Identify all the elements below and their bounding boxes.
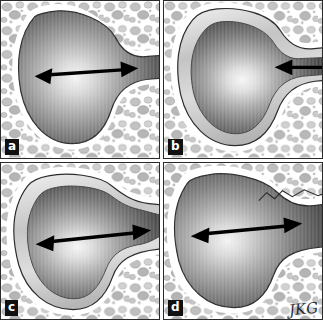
panel-c: c xyxy=(0,162,160,320)
panel-label-c: c xyxy=(5,300,18,316)
panel-label-a: a xyxy=(5,139,19,155)
panel-d: d JKG xyxy=(163,162,323,320)
panel-a: a xyxy=(0,0,160,159)
panel-b: b xyxy=(163,0,323,159)
panel-d-stage: d JKG xyxy=(164,163,322,320)
cyst-shape-d xyxy=(164,163,322,320)
cyst-shape-b xyxy=(164,1,322,158)
figure-grid: a xyxy=(0,0,323,320)
panel-a-stage: a xyxy=(1,1,159,158)
panel-b-stage: b xyxy=(164,1,322,158)
panel-label-d: d xyxy=(168,300,183,316)
cyst-shape-a xyxy=(1,1,159,158)
panel-label-b: b xyxy=(168,139,183,155)
panel-c-stage: c xyxy=(1,163,159,320)
artist-signature: JKG xyxy=(288,301,319,319)
cyst-shape-c xyxy=(1,163,159,320)
